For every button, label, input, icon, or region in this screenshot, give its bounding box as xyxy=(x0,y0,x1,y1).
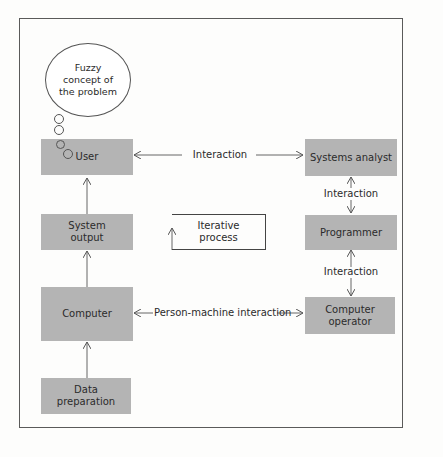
edge-label-analyst-programmer: Interaction xyxy=(316,188,386,200)
thought-bubble: Fuzzy concept of the problem xyxy=(45,43,131,117)
thought-dot xyxy=(54,125,64,135)
edge-label-person-machine: Person-machine interaction xyxy=(154,307,276,319)
node-label: User xyxy=(76,151,99,163)
node-label: Computer operator xyxy=(320,304,380,328)
node-data-preparation: Data preparation xyxy=(41,378,131,414)
iterative-process-label: Iterative process xyxy=(194,220,244,244)
node-computer-operator: Computer operator xyxy=(305,297,395,334)
node-label: Computer xyxy=(62,308,112,320)
node-label: Data preparation xyxy=(56,384,116,408)
node-label: Programmer xyxy=(320,227,382,239)
node-programmer: Programmer xyxy=(305,215,397,250)
edge-label-programmer-operator: Interaction xyxy=(316,266,386,278)
thought-text: Fuzzy concept of the problem xyxy=(56,62,120,98)
iterative-process-box: Iterative process xyxy=(172,214,266,250)
node-user: User xyxy=(41,139,133,175)
edge-label-user-analyst: Interaction xyxy=(185,149,255,161)
node-label: System output xyxy=(62,220,112,244)
node-systems-analyst: Systems analyst xyxy=(305,139,397,176)
thought-dot xyxy=(56,140,65,149)
node-computer: Computer xyxy=(41,287,133,341)
node-system-output: System output xyxy=(41,214,133,250)
thought-dot xyxy=(54,114,64,124)
node-label: Systems analyst xyxy=(310,152,392,164)
thought-dot xyxy=(63,149,73,159)
